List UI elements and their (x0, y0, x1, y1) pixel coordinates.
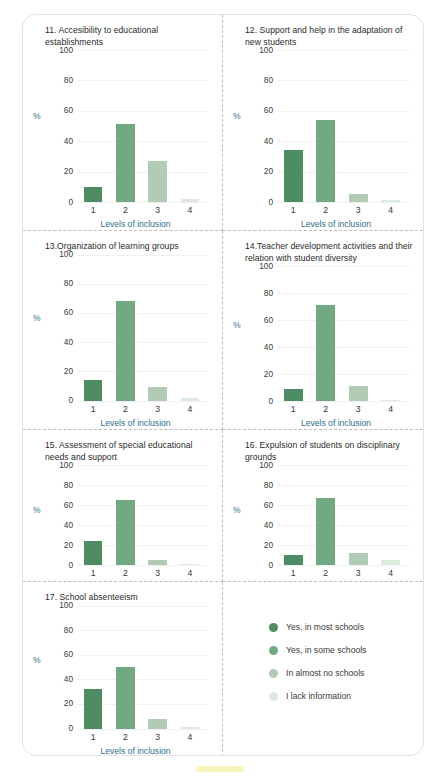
plot-area: %1008060402001234Levels of inclusion (231, 50, 415, 202)
y-tick-label: 100 (231, 45, 273, 55)
y-tick-label: 0 (231, 560, 273, 570)
y-tick-label: 20 (31, 166, 73, 176)
x-tick-label: 2 (111, 732, 139, 742)
bar (148, 560, 167, 565)
bar-slot (111, 465, 139, 565)
bar-slot (311, 266, 340, 401)
x-tick-label: 4 (376, 568, 405, 578)
bar-slot (79, 465, 107, 565)
y-tick-label: 40 (31, 520, 73, 530)
x-tick-label: 2 (311, 568, 340, 578)
y-tick-label: 0 (31, 197, 73, 207)
y-tick-label: 60 (31, 649, 73, 659)
x-tick-label: 4 (176, 205, 204, 215)
bar-slot (376, 465, 405, 565)
y-tick-label: 100 (31, 460, 73, 470)
bar-group (277, 465, 407, 565)
x-tick-label: 1 (279, 205, 308, 215)
y-tick-label: 40 (231, 136, 273, 146)
x-tick-label: 4 (176, 732, 204, 742)
y-tick-label: 60 (231, 315, 273, 325)
x-tick-label: 2 (311, 205, 340, 215)
y-tick-label: 80 (231, 288, 273, 298)
y-tick-label: 0 (231, 396, 273, 406)
bar (349, 553, 368, 565)
bar (284, 555, 303, 565)
bar (116, 667, 135, 729)
y-tick-label: 80 (31, 480, 73, 490)
plot-area: %1008060402001234Levels of inclusion (31, 606, 214, 729)
gridline (77, 565, 208, 566)
plot-area: %1008060402001234Levels of inclusion (231, 266, 415, 401)
bar (349, 386, 368, 401)
bar (181, 398, 200, 401)
bar-slot (176, 465, 204, 565)
y-tick-label: 0 (31, 560, 73, 570)
bar-slot (176, 50, 204, 202)
gridline (277, 202, 409, 203)
bar (148, 719, 167, 729)
x-tick-label: 2 (111, 205, 139, 215)
y-tick-label: 40 (31, 337, 73, 347)
x-axis-labels: 1234 (77, 404, 206, 414)
bar (116, 500, 135, 565)
bar-slot (79, 606, 107, 729)
x-tick-label: 4 (376, 404, 405, 414)
x-tick-label: 1 (279, 568, 308, 578)
x-axis-labels: 1234 (277, 568, 407, 578)
bar-group (77, 465, 206, 565)
bar (284, 150, 303, 202)
bar-slot (176, 255, 204, 401)
x-axis-labels: 1234 (277, 404, 407, 414)
y-tick-label: 80 (231, 75, 273, 85)
y-tick-label: 40 (231, 342, 273, 352)
x-tick-label: 2 (111, 404, 139, 414)
gridline (77, 202, 208, 203)
y-tick-label: 100 (31, 600, 73, 610)
bar (316, 498, 335, 565)
bar-slot (344, 266, 373, 401)
plot-area: %1008060402001234 (31, 465, 214, 565)
bar (381, 400, 400, 402)
y-tick-label: 20 (231, 540, 273, 550)
x-tick-label: 4 (176, 404, 204, 414)
bar (181, 727, 200, 729)
bar (148, 161, 167, 202)
bar-slot (376, 50, 405, 202)
legend-item: Yes, in most schools (269, 622, 415, 632)
y-tick-label: 60 (231, 500, 273, 510)
legend-swatch-icon (269, 646, 278, 655)
bar-slot (279, 465, 308, 565)
x-tick-label: 3 (143, 205, 171, 215)
y-tick-label: 100 (231, 261, 273, 271)
bar (116, 301, 135, 400)
legend-item: I lack information (269, 691, 415, 701)
bar-slot (111, 50, 139, 202)
bar (381, 200, 400, 202)
bar (181, 199, 200, 202)
bar-slot (176, 606, 204, 729)
chart-panel-15: 15. Assessment of special educational ne… (23, 430, 223, 582)
bar-slot (143, 465, 171, 565)
y-tick-label: 20 (31, 540, 73, 550)
chart-panel-12: 12. Support and help in the adaptation o… (223, 15, 423, 231)
x-tick-label: 1 (79, 404, 107, 414)
gridline (77, 401, 208, 402)
y-tick-label: 0 (31, 723, 73, 733)
x-tick-label: 1 (79, 205, 107, 215)
chart-panel-13: 13.Organization of learning groups%10080… (23, 231, 223, 430)
y-tick-label: 20 (231, 166, 273, 176)
bar-slot (376, 266, 405, 401)
bar (84, 380, 103, 400)
bar-slot (311, 50, 340, 202)
plot-area: %1008060402001234 (231, 465, 415, 565)
bar (84, 541, 103, 565)
legend-swatch-icon (269, 692, 278, 701)
bar (316, 120, 335, 202)
bar-group (277, 266, 407, 401)
charts-card: 11. Accesibility to educational establis… (22, 14, 424, 756)
x-axis-labels: 1234 (277, 205, 407, 215)
bar-slot (311, 465, 340, 565)
x-axis-labels: 1234 (77, 732, 206, 742)
y-tick-label: 60 (31, 500, 73, 510)
